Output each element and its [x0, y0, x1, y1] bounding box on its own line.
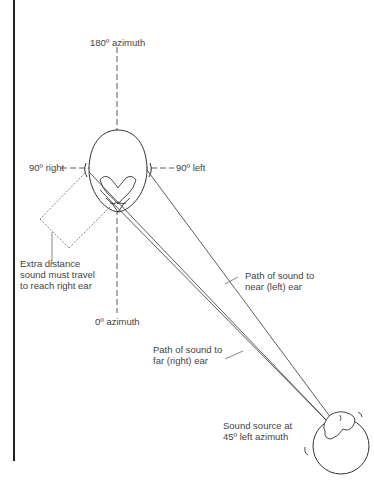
diagram-canvas	[0, 0, 374, 481]
far-path-leader	[225, 351, 243, 359]
label-90-left: 90º left	[176, 162, 205, 173]
near-ear-path	[147, 170, 334, 422]
far-ear-path	[89, 172, 330, 424]
label-sound-source: Sound source at 45º left azimuth	[223, 420, 292, 442]
label-0-azimuth: 0º azimuth	[95, 316, 140, 327]
label-far-path: Path of sound to far (right) ear	[153, 344, 222, 366]
label-near-path: Path of sound to near (left) ear	[245, 270, 314, 292]
sound-source-head-icon	[305, 412, 369, 474]
label-180-azimuth: 180º azimuth	[90, 37, 145, 48]
label-90-right: 90º right	[29, 162, 64, 173]
label-extra-distance: Extra distance sound must travel to reac…	[20, 258, 95, 291]
listener-head-icon	[85, 130, 152, 212]
